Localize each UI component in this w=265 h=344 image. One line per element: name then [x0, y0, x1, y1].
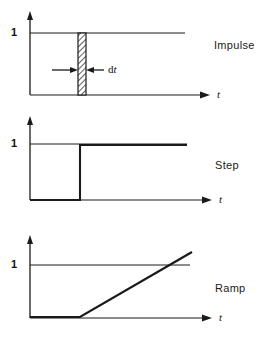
ramp-side-label: Ramp — [215, 282, 246, 294]
ramp-t-axis-label: t — [219, 311, 222, 323]
ramp-y-axis-arrowhead — [27, 235, 33, 244]
ramp-t-axis-arrowhead — [202, 315, 212, 322]
signal-waveforms-figure: 1 t dt Impulse 1 t Step — [0, 0, 265, 344]
ramp-level-label: 1 — [11, 258, 17, 270]
ramp-waveform — [30, 252, 192, 317]
